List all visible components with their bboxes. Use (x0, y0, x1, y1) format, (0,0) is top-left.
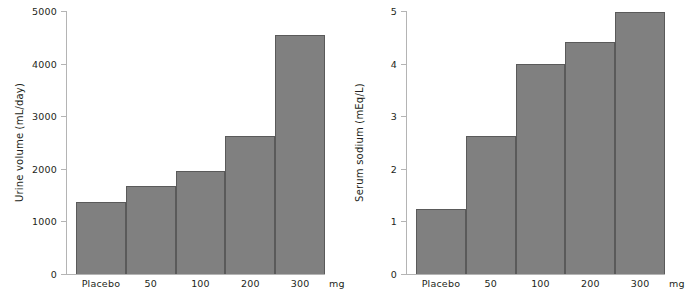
bar (565, 42, 615, 274)
y-axis-title: Urine volume (mL/day) (14, 11, 28, 274)
x-axis-line (66, 274, 325, 275)
x-axis-category-label: 50 (466, 278, 516, 289)
y-axis-tick (61, 274, 66, 275)
y-axis-tick-label: 5 (391, 6, 397, 17)
bar (126, 186, 176, 274)
x-axis-unit-label: mg (669, 278, 685, 289)
bar (516, 64, 566, 274)
bar (176, 171, 226, 274)
bar (416, 209, 466, 274)
y-axis-tick-label: 2000 (32, 163, 57, 174)
y-axis-tick-label: 0 (51, 269, 57, 280)
x-axis-category-label: 100 (176, 278, 226, 289)
bar (466, 136, 516, 274)
y-axis-tick-label: 3 (391, 111, 397, 122)
x-axis-category-label: Placebo (416, 278, 466, 289)
y-axis-tick-label: 1 (391, 216, 397, 227)
y-axis-tick-label: 5000 (32, 6, 57, 17)
y-axis-tick-label: 0 (391, 269, 397, 280)
y-axis-tick-label: 2 (391, 163, 397, 174)
bar (76, 202, 126, 274)
y-axis-tick-label: 4000 (32, 58, 57, 69)
y-axis-tick (401, 274, 406, 275)
y-axis-title: Serum sodium (mEq/L) (354, 11, 368, 274)
y-axis-tick-label: 3000 (32, 111, 57, 122)
x-axis-category-label: 50 (126, 278, 176, 289)
bar (225, 136, 275, 274)
x-axis-category-label: Placebo (76, 278, 126, 289)
x-axis-category-label: 200 (565, 278, 615, 289)
x-axis-category-label: 300 (615, 278, 665, 289)
y-axis-tick-label: 4 (391, 58, 397, 69)
bar (615, 12, 665, 274)
x-axis-category-label: 100 (516, 278, 566, 289)
chart-panel-urine-volume: 010002000300040005000 Placebo50100200300… (0, 0, 340, 300)
bar (275, 35, 325, 274)
bar-series (66, 11, 315, 274)
x-axis-category-label: 200 (225, 278, 275, 289)
x-axis-line (406, 274, 665, 275)
y-axis-tick-label: 1000 (32, 216, 57, 227)
x-axis-category-label: 300 (275, 278, 325, 289)
bar-series (406, 11, 655, 274)
chart-panel-serum-sodium: 012345 Placebo50100200300 mg Serum sodiu… (340, 0, 680, 300)
